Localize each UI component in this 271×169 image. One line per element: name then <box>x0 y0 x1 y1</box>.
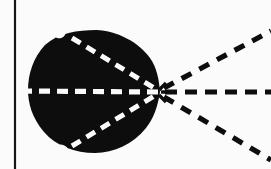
diagram-svg <box>0 0 271 169</box>
figure-canvas <box>0 0 271 169</box>
